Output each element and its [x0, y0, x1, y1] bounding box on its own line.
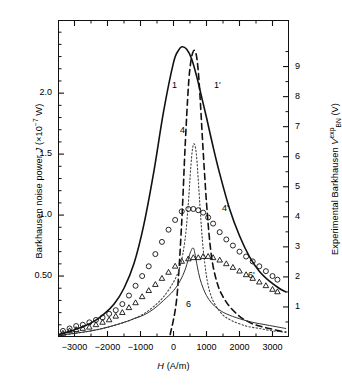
x-axis-title: H (A/m): [58, 361, 289, 371]
data-curves: [58, 47, 286, 336]
y-right-tick-label: 7: [295, 121, 315, 131]
y-right-tick-label: 8: [295, 91, 315, 101]
y-right-tick-label: 1: [295, 301, 315, 311]
curve-label-1: 1: [172, 80, 177, 90]
y-left-tick-label: 1.0: [16, 209, 52, 219]
y-right-tick-label: 3: [295, 241, 315, 251]
curve-label-4: 4: [180, 125, 185, 135]
y-left-tick-label: 2.0: [16, 87, 52, 97]
curve-label-4-prime: 4': [222, 203, 229, 213]
y-right-tick-label: 5: [295, 181, 315, 191]
curve-label-6: 6: [186, 299, 191, 309]
y-right-symbol: V: [330, 139, 340, 145]
y-left-tick-label: 1.5: [16, 148, 52, 158]
y-left-tick-label: 0.50: [16, 270, 52, 280]
y-right-tick-label: 6: [295, 151, 315, 161]
y-axis-right-title: Experimental Barkhausen VexpBN (V): [328, 49, 342, 309]
curve-label-1-prime: 1': [214, 80, 221, 90]
y-right-tick-label: 4: [295, 211, 315, 221]
y-right-tick-label: 2: [295, 271, 315, 281]
y-right-tick-label: 9: [295, 61, 315, 71]
x-tick-label: 3000: [249, 342, 297, 352]
curve-label-6-prime: 6': [248, 270, 255, 280]
axis-ticks: [58, 20, 289, 337]
